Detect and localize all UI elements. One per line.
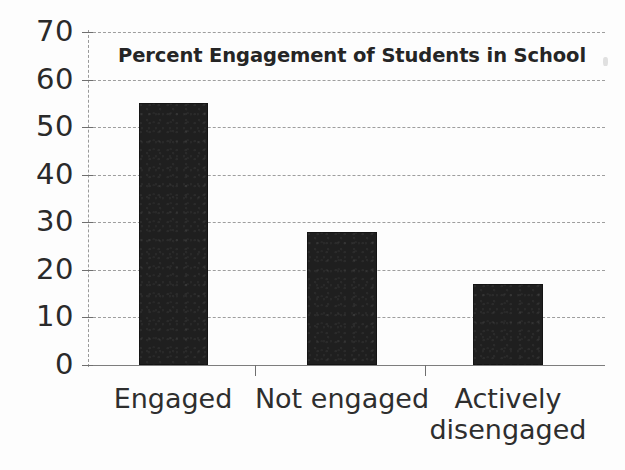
y-tick-label-40: 40 [12,160,74,189]
y-tick-label-70: 70 [12,17,74,46]
plot-area [88,32,605,365]
bar-not-engaged [307,232,377,365]
y-tick-label-10: 10 [12,302,74,331]
y-tick-label-60: 60 [12,65,74,94]
bar-actively-disengaged [473,284,543,365]
y-tick-label-30: 30 [12,207,74,236]
scan-artifact-speck [603,57,608,66]
gridline-0 [88,365,605,366]
bar-engaged [139,103,208,365]
bar-chart-figure: Percent Engagement of Students in School… [0,0,625,470]
y-tick-0 [82,365,93,366]
y-tick-label-20: 20 [12,255,74,284]
y-tick-label-50: 50 [12,112,74,141]
category-separator-tick-2 [425,365,426,376]
category-separator-tick-1 [255,365,256,376]
x-axis-label-3: Actively disengaged [398,383,618,446]
y-tick-label-0: 0 [12,350,74,379]
